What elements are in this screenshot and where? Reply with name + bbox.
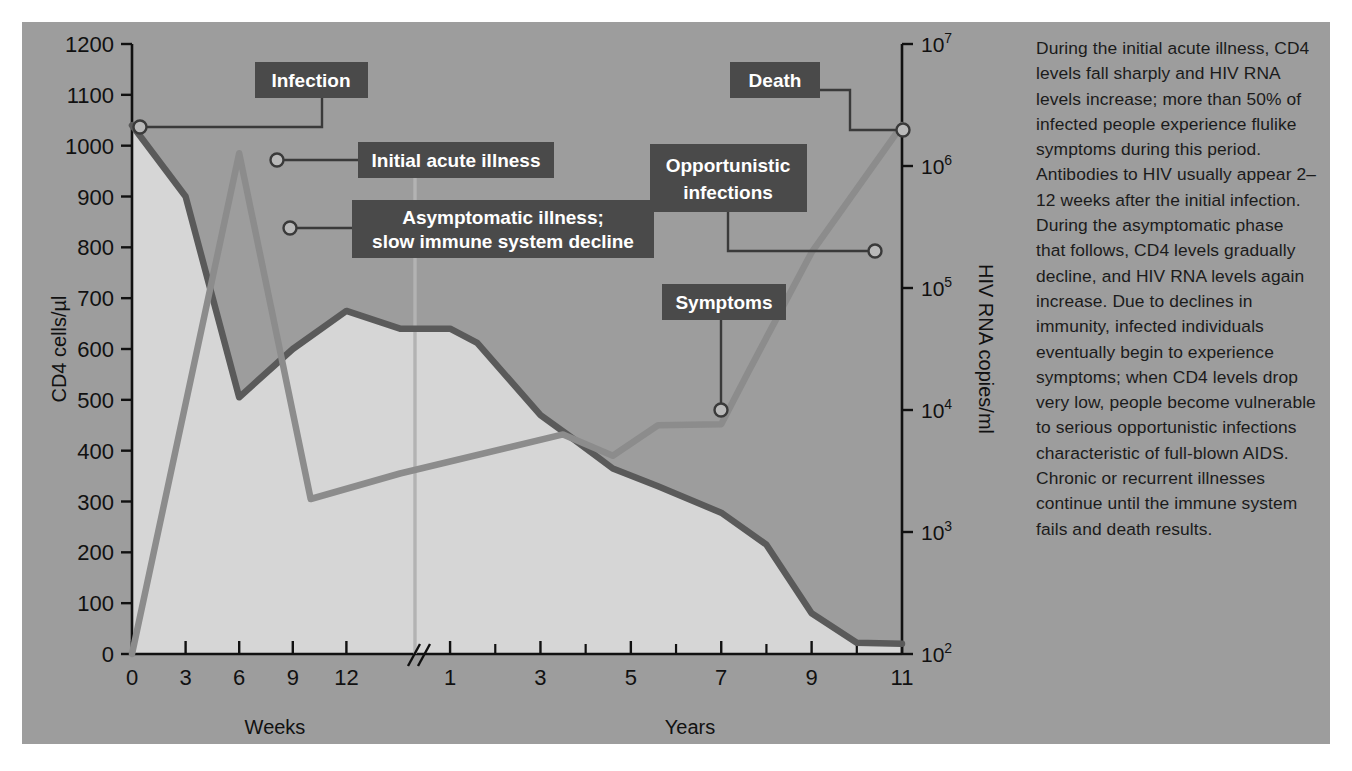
x-tick-label: 7	[715, 665, 727, 690]
y-tick-label-right: 105	[921, 274, 952, 300]
callout-infection-marker	[134, 121, 147, 134]
x-tick-label: 9	[287, 665, 299, 690]
y-tick-label-right: 102	[921, 640, 952, 666]
callout-death-label: Death	[749, 70, 802, 91]
callout-asymptomatic-marker	[284, 222, 297, 235]
callout-infection-label: Infection	[271, 70, 350, 91]
x-tick-label: 11	[891, 665, 914, 690]
x-tick-label: 12	[334, 665, 358, 690]
x-tick-label: 3	[534, 665, 546, 690]
y-tick-label-left: 800	[77, 235, 114, 260]
y-axis-right-title: HIV RNA copies/ml	[975, 264, 997, 434]
y-axis-left-ticks: 0100200300400500600700800900100011001200	[65, 32, 132, 667]
y-tick-label-left: 700	[77, 286, 114, 311]
y-tick-label-left: 500	[77, 388, 114, 413]
callout-death[interactable]: Death	[730, 62, 910, 137]
x-tick-label: 1	[444, 665, 456, 690]
callout-asymptomatic-label-line2: slow immune system decline	[372, 231, 634, 252]
y-tick-label-left: 0	[102, 642, 114, 667]
callout-death-marker	[897, 124, 910, 137]
x-tick-label: 3	[179, 665, 191, 690]
y-tick-label-left: 600	[77, 337, 114, 362]
y-tick-label-left: 1000	[65, 134, 114, 159]
figure-panel: 0100200300400500600700800900100011001200…	[22, 22, 1330, 744]
y-axis-right-ticks: 102103104105106107	[902, 30, 952, 666]
y-tick-label-right: 103	[921, 518, 952, 544]
callout-opportunistic-infections-marker	[869, 245, 882, 258]
callout-symptoms-label: Symptoms	[675, 292, 772, 313]
x-tick-label: 9	[805, 665, 817, 690]
callout-infection-leader	[144, 98, 322, 127]
y-tick-label-left: 1100	[67, 83, 114, 108]
hiv-cd4-timecourse-chart: 0100200300400500600700800900100011001200…	[22, 22, 1030, 744]
callout-opportunistic-infections-label-line1: Opportunistic	[666, 155, 791, 176]
y-tick-label-left: 1200	[65, 32, 114, 57]
x-tick-label: 6	[233, 665, 245, 690]
y-tick-label-right: 106	[921, 152, 952, 178]
y-tick-label-right: 107	[921, 30, 952, 56]
callout-opportunistic-infections-leader	[728, 212, 871, 251]
x-tick-label: 5	[625, 665, 637, 690]
y-tick-label-left: 400	[77, 439, 114, 464]
figure-root: 0100200300400500600700800900100011001200…	[0, 0, 1352, 771]
callout-initial-acute-illness-label: Initial acute illness	[372, 150, 541, 171]
chart-area: 0100200300400500600700800900100011001200…	[22, 22, 1030, 744]
y-tick-label-left: 900	[77, 185, 114, 210]
x-tick-label: 0	[126, 665, 138, 690]
callout-asymptomatic[interactable]: Asymptomatic illness; slow immune system…	[284, 200, 655, 258]
x-axis-weeks-title: Weeks	[245, 716, 306, 738]
y-tick-label-left: 100	[77, 591, 114, 616]
x-axis-years-title: Years	[665, 716, 715, 738]
description-paragraph: During the initial acute illness, CD4 le…	[1036, 36, 1316, 542]
callout-initial-acute-illness-marker	[271, 154, 284, 167]
y-tick-label-right: 104	[921, 396, 952, 422]
callout-death-leader	[810, 90, 899, 130]
y-tick-label-left: 200	[77, 540, 114, 565]
callout-infection[interactable]: Infection	[134, 62, 369, 134]
callout-opportunistic-infections-label-line2: infections	[683, 182, 773, 203]
y-tick-label-left: 300	[77, 490, 114, 515]
description-column: During the initial acute illness, CD4 le…	[1030, 30, 1330, 730]
y-axis-left-title: CD4 cells/µl	[48, 295, 70, 402]
callout-initial-acute-illness[interactable]: Initial acute illness	[271, 142, 555, 178]
callout-symptoms-marker	[715, 404, 728, 417]
callout-asymptomatic-label-line1: Asymptomatic illness;	[402, 207, 604, 228]
callout-symptoms[interactable]: Symptoms	[662, 284, 786, 417]
